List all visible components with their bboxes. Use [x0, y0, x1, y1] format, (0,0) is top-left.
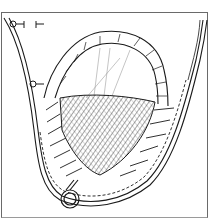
mesh-patch — [60, 95, 155, 175]
rolled-flap — [44, 31, 168, 106]
surgical-diagram — [0, 0, 212, 223]
illustration-canvas — [0, 0, 212, 223]
